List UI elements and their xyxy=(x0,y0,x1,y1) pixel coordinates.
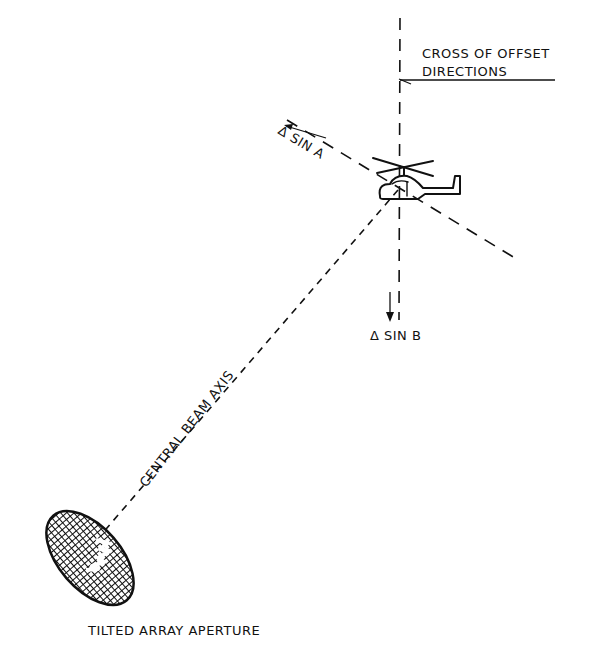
helicopter-icon xyxy=(373,158,460,199)
tilted-array-aperture xyxy=(30,495,150,620)
central-beam-axis xyxy=(88,190,398,550)
cross-label-line2: DIRECTIONS xyxy=(422,64,507,79)
delta-sin-b-arrow xyxy=(386,292,394,322)
diagonal-offset-axis xyxy=(287,120,515,258)
cross-label-line1: CROSS OF OFFSET xyxy=(422,46,550,61)
central-beam-axis-label: CENTRAL BEAM AXIS xyxy=(137,368,237,490)
delta-sin-a-label: Δ SIN A xyxy=(275,123,327,162)
cross-callout-leader xyxy=(399,79,555,84)
aperture-label: TILTED ARRAY APERTURE xyxy=(87,623,260,638)
diagram-canvas: CROSS OF OFFSET DIRECTIONS Δ SIN A Δ SIN… xyxy=(0,0,593,666)
delta-sin-b-label: Δ SIN B xyxy=(370,328,421,343)
